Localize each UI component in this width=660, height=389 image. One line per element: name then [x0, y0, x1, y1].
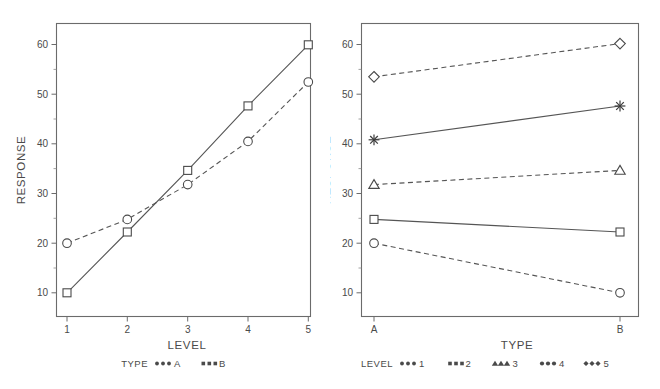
right-x-axis-label: TYPE: [501, 339, 533, 351]
right-legend-entry-5[interactable]: 5: [583, 358, 609, 369]
chart-panel-left: 60 50 40 30 20 10 RESPONSE 1 2 3 4 5: [0, 0, 330, 389]
left-xtick-label-4: 4: [245, 324, 251, 335]
right-series-3-line: [374, 170, 620, 184]
right-legend-entry-4[interactable]: 4: [540, 358, 565, 369]
left-xtick-label-5: 5: [306, 324, 312, 335]
left-legend: TYPE A B: [121, 358, 226, 369]
right-y-ticks: [357, 45, 362, 293]
left-plot-svg: 60 50 40 30 20 10 RESPONSE 1 2 3 4 5: [0, 0, 330, 389]
left-legend-title: TYPE: [121, 358, 148, 369]
right-x-ticks: [374, 317, 620, 322]
right-legend-label-1: 1: [419, 358, 425, 369]
right-xtick-label-b: B: [617, 324, 624, 335]
right-legend-label-3: 3: [513, 358, 519, 369]
left-xtick-label-2: 2: [125, 324, 131, 335]
left-ytick-label-20: 20: [37, 238, 49, 249]
right-ytick-label-60: 60: [342, 39, 354, 50]
left-ytick-label-60: 60: [37, 39, 49, 50]
right-y-axis-label: RESPONSE: [330, 136, 332, 205]
right-plot-frame: [362, 24, 639, 317]
right-series-1-markers: [370, 239, 625, 297]
left-y-axis-label: RESPONSE: [15, 136, 27, 205]
right-legend-label-5: 5: [604, 358, 610, 369]
left-legend-entry-a[interactable]: A: [155, 358, 181, 369]
right-legend-entry-1[interactable]: 1: [400, 358, 425, 369]
right-ytick-label-50: 50: [342, 89, 354, 100]
left-series-a-markers: [63, 78, 313, 248]
left-xtick-label-1: 1: [64, 324, 70, 335]
right-plot-svg: 60 50 40 30 20 10 RESPONSE A B TYPE: [330, 0, 660, 389]
right-ytick-label-10: 10: [342, 287, 354, 298]
left-x-ticks: [67, 317, 308, 322]
left-ytick-label-10: 10: [37, 287, 49, 298]
right-legend-label-4: 4: [559, 358, 565, 369]
right-legend: LEVEL 1 2 3: [361, 358, 609, 369]
right-series-1-line: [374, 243, 620, 293]
left-legend-label-b: B: [219, 358, 226, 369]
right-ytick-label-20: 20: [342, 238, 354, 249]
right-series-5-line: [374, 44, 620, 77]
left-ytick-label-40: 40: [37, 138, 49, 149]
left-y-ticks: [52, 45, 57, 293]
figure-canvas: 60 50 40 30 20 10 RESPONSE 1 2 3 4 5: [0, 0, 660, 389]
left-legend-entry-b[interactable]: B: [202, 358, 226, 369]
right-legend-entry-2[interactable]: 2: [448, 358, 471, 369]
right-legend-entry-3[interactable]: 3: [492, 358, 518, 369]
right-series-5-markers: [369, 38, 626, 82]
left-ytick-label-30: 30: [37, 188, 49, 199]
chart-panel-right: 60 50 40 30 20 10 RESPONSE A B TYPE: [330, 0, 660, 389]
right-legend-label-2: 2: [466, 358, 472, 369]
left-legend-label-a: A: [174, 358, 181, 369]
left-x-axis-label: LEVEL: [168, 339, 207, 351]
right-series-3-markers: [369, 165, 625, 188]
right-ytick-label-30: 30: [342, 188, 354, 199]
left-xtick-label-3: 3: [185, 324, 191, 335]
right-series-4-line: [374, 106, 620, 140]
left-ytick-label-50: 50: [37, 89, 49, 100]
right-series-2-line: [374, 219, 620, 232]
right-legend-title: LEVEL: [361, 358, 393, 369]
left-series-a-line: [67, 82, 308, 243]
right-ytick-label-40: 40: [342, 138, 354, 149]
right-xtick-label-a: A: [371, 324, 378, 335]
